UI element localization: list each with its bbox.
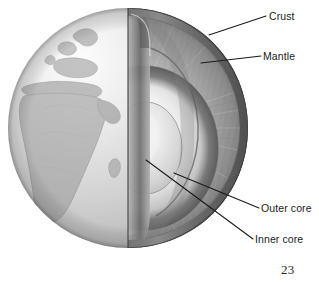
label-crust: Crust: [269, 11, 295, 22]
earth-cutaway-illustration: [0, 0, 319, 292]
page-number: 23: [281, 262, 295, 278]
leader-line-crust: [209, 16, 266, 35]
label-inner-core: Inner core: [255, 234, 303, 245]
label-outer-core: Outer core: [261, 203, 312, 214]
earth-interior-figure: Crust Mantle Outer core Inner core 23: [0, 0, 319, 292]
label-mantle: Mantle: [263, 51, 295, 62]
